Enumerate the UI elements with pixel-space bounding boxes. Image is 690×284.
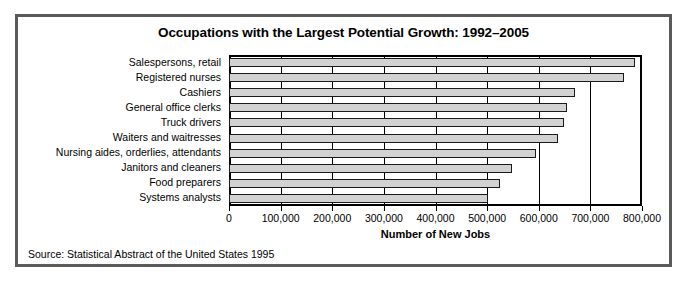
bar bbox=[229, 179, 500, 188]
category-label: Cashiers bbox=[180, 87, 221, 98]
x-tick-mark bbox=[642, 206, 643, 211]
bar bbox=[229, 194, 488, 203]
bar-row bbox=[229, 134, 642, 143]
bar-row bbox=[229, 73, 642, 82]
x-axis-tick-labels: 0100,000200,000300,000400,000500,000600,… bbox=[18, 212, 669, 226]
category-label: Registered nurses bbox=[136, 72, 221, 83]
category-label: Nursing aides, orderlies, attendants bbox=[56, 147, 221, 158]
bar bbox=[229, 164, 512, 173]
bar bbox=[229, 73, 624, 82]
x-tick-label: 300,000 bbox=[365, 212, 403, 224]
category-label: Truck drivers bbox=[161, 117, 221, 128]
x-tick-mark bbox=[539, 206, 540, 211]
x-tick-label: 0 bbox=[226, 212, 232, 224]
x-tick-label: 100,000 bbox=[262, 212, 300, 224]
x-tick-mark bbox=[281, 206, 282, 211]
x-tick-label: 800,000 bbox=[623, 212, 661, 224]
chart-title: Occupations with the Largest Potential G… bbox=[18, 25, 669, 40]
plot-area bbox=[229, 55, 642, 206]
x-tick-label: 700,000 bbox=[571, 212, 609, 224]
x-axis-title: Number of New Jobs bbox=[229, 228, 642, 240]
category-label: General office clerks bbox=[125, 102, 221, 113]
bar-row bbox=[229, 88, 642, 97]
category-label: Salespersons, retail bbox=[129, 57, 221, 68]
x-tick-label: 600,000 bbox=[520, 212, 558, 224]
x-tick-mark bbox=[436, 206, 437, 211]
category-label: Systems analysts bbox=[139, 192, 221, 203]
x-tick-label: 500,000 bbox=[468, 212, 506, 224]
bar bbox=[229, 134, 558, 143]
bar bbox=[229, 118, 564, 127]
bar bbox=[229, 88, 575, 97]
bar-row bbox=[229, 179, 642, 188]
x-tick-mark bbox=[384, 206, 385, 211]
x-tick-mark bbox=[229, 206, 230, 211]
bar-row bbox=[229, 103, 642, 112]
bar bbox=[229, 149, 536, 158]
chart-figure: Occupations with the Largest Potential G… bbox=[15, 14, 672, 267]
bar-row bbox=[229, 118, 642, 127]
category-label: Janitors and cleaners bbox=[121, 162, 221, 173]
category-axis-labels: Salespersons, retailRegistered nursesCas… bbox=[18, 55, 225, 206]
category-label: Food preparers bbox=[149, 177, 221, 188]
bar-row bbox=[229, 149, 642, 158]
bar-row bbox=[229, 164, 642, 173]
bar bbox=[229, 103, 567, 112]
x-tick-mark bbox=[487, 206, 488, 211]
source-note: Source: Statistical Abstract of the Unit… bbox=[28, 248, 274, 260]
x-tick-mark bbox=[332, 206, 333, 211]
x-tick-label: 400,000 bbox=[417, 212, 455, 224]
bar-row bbox=[229, 58, 642, 67]
bar-row bbox=[229, 194, 642, 203]
bar bbox=[229, 58, 635, 67]
figure-inner: Occupations with the Largest Potential G… bbox=[18, 17, 669, 264]
category-label: Waiters and waitresses bbox=[113, 132, 221, 143]
x-tick-label: 200,000 bbox=[313, 212, 351, 224]
x-tick-mark bbox=[590, 206, 591, 211]
